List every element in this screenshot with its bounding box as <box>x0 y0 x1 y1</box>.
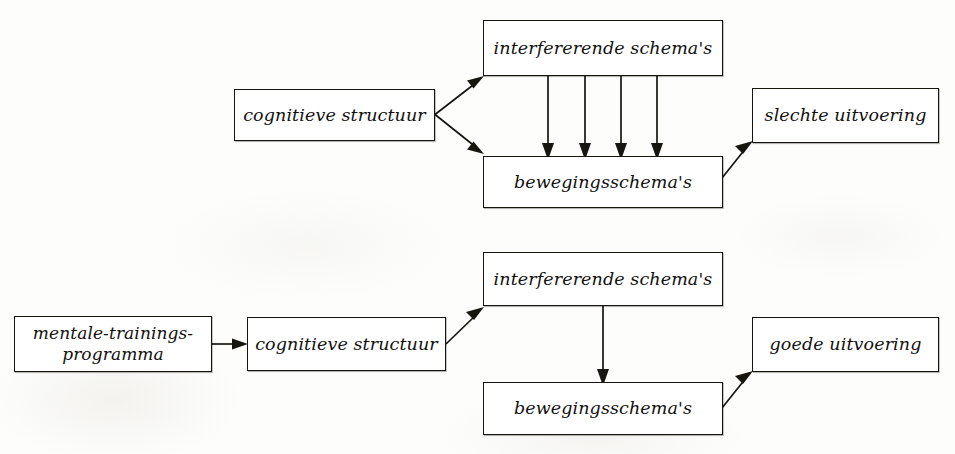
edge-top-cogstruct-to-interfererende <box>435 76 484 115</box>
node-label: cognitieve structuur <box>249 334 444 354</box>
node-label: cognitieve structuur <box>237 105 432 125</box>
edge-top-cogstruct-to-bewegings <box>435 115 484 155</box>
node-label: interfererende schema's <box>488 38 719 58</box>
node-label: mentale-trainings- programma <box>27 323 199 366</box>
node-label: bewegingsschema's <box>508 398 698 418</box>
node-top-cognitieve-structuur[interactable]: cognitieve structuur <box>234 89 435 141</box>
node-top-interfererende-schemas[interactable]: interfererende schema's <box>483 20 723 76</box>
edge-bottom-mtp-to-cogstruct <box>212 339 248 350</box>
node-bottom-goede-uitvoering[interactable]: goede uitvoering <box>752 317 939 372</box>
edge-layer <box>0 0 955 454</box>
edge-top-interference-2 <box>579 75 591 160</box>
edge-top-interference-3 <box>615 75 627 160</box>
node-bottom-cognitieve-structuur[interactable]: cognitieve structuur <box>247 317 446 371</box>
node-label: slechte uitvoering <box>759 105 933 125</box>
edge-top-interference-1 <box>542 75 554 160</box>
edge-bottom-bewegings-to-uitvoering <box>722 371 753 408</box>
edge-top-interference-4 <box>651 75 663 160</box>
edge-bottom-cogstruct-to-interfererende <box>446 307 484 344</box>
figure-canvas: interfererende schema's cognitieve struc… <box>0 0 955 454</box>
node-top-slechte-uitvoering[interactable]: slechte uitvoering <box>752 88 939 143</box>
node-bottom-bewegingsschemas[interactable]: bewegingsschema's <box>483 382 723 435</box>
node-label: bewegingsschema's <box>508 172 698 192</box>
node-bottom-interfererende-schemas[interactable]: interfererende schema's <box>483 252 723 306</box>
node-label: interfererende schema's <box>488 269 719 289</box>
node-label: goede uitvoering <box>764 334 928 354</box>
node-top-bewegingsschemas[interactable]: bewegingsschema's <box>483 156 723 208</box>
edge-bottom-interference-1 <box>597 305 609 386</box>
edge-top-bewegings-to-uitvoering <box>722 141 753 178</box>
node-bottom-mentale-trainingsprogramma[interactable]: mentale-trainings- programma <box>14 316 212 372</box>
